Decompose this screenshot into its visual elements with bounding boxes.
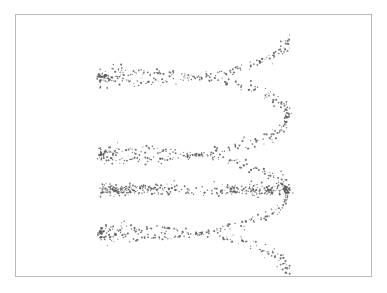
- figure-canvas: [0, 0, 387, 293]
- scatter-plot-points: [0, 0, 387, 293]
